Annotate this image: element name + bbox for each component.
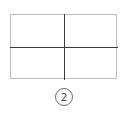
horizontal-divider [10,47,118,48]
figure-number-badge: 2 [55,88,73,106]
